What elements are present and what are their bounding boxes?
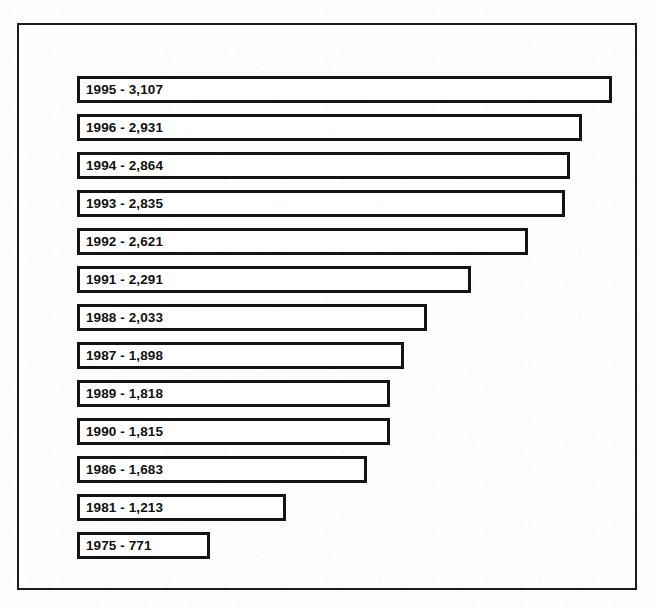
bar-label-1990: 1990 - 1,815 <box>86 418 163 445</box>
bars-container: 1995 - 3,1071996 - 2,9311994 - 2,8641993… <box>77 76 637 596</box>
bar-label-1975: 1975 - 771 <box>86 532 152 559</box>
chart-plot-frame: 1995 - 3,1071996 - 2,9311994 - 2,8641993… <box>17 23 637 590</box>
bar-label-1986: 1986 - 1,683 <box>86 456 163 483</box>
bar-label-1992: 1992 - 2,621 <box>86 228 163 255</box>
bar-label-1987: 1987 - 1,898 <box>86 342 163 369</box>
bar-label-1991: 1991 - 2,291 <box>86 266 163 293</box>
bar-chart-figure: 1995 - 3,1071996 - 2,9311994 - 2,8641993… <box>0 0 656 608</box>
bar-label-1988: 1988 - 2,033 <box>86 304 163 331</box>
bar-label-1996: 1996 - 2,931 <box>86 114 163 141</box>
bar-label-1993: 1993 - 2,835 <box>86 190 163 217</box>
bar-label-1994: 1994 - 2,864 <box>86 152 163 179</box>
bar-label-1995: 1995 - 3,107 <box>86 76 163 103</box>
chart-title <box>0 0 656 3</box>
bar-label-1981: 1981 - 1,213 <box>86 494 163 521</box>
bar-label-1989: 1989 - 1,818 <box>86 380 163 407</box>
